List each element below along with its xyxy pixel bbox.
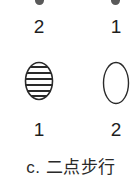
top-left-label: 2 [29,17,49,36]
top-right-label: 1 [106,17,126,36]
striped-footprint-icon [24,61,54,101]
left-point-marker [35,0,44,5]
empty-footprint-icon [101,61,131,105]
bottom-left-label: 1 [29,120,49,139]
bottom-right-label: 2 [106,120,126,139]
diagram-caption: c. 二点步行 [2,159,138,177]
right-point-marker [111,0,120,5]
